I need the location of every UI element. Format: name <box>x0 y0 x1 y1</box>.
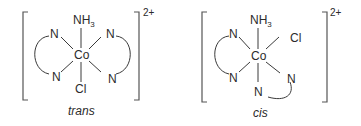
ligand-right-upper: Cl <box>290 31 301 45</box>
ligand-left-upper: N <box>229 27 238 41</box>
metal-center: Co <box>251 49 267 63</box>
isomer-diagram: 2+ NH3 Co Cl N N N N trans 2+ NH3 Co Cl … <box>0 0 361 126</box>
right-bracket <box>134 12 139 100</box>
trans-complex: 2+ NH3 Co Cl N N N N trans <box>23 7 155 118</box>
ligand-right-lower: N <box>287 72 296 86</box>
chelate-left <box>215 36 229 74</box>
ligand-right-lower: N <box>108 72 117 86</box>
ligand-bottom: Cl <box>75 82 86 96</box>
ligand-left-upper: N <box>50 27 59 41</box>
ligand-right-upper: N <box>106 27 115 41</box>
ligand-bottom: N <box>254 85 263 99</box>
left-bracket <box>23 12 28 100</box>
ligand-top: NH3 <box>73 13 95 29</box>
chelate-right <box>116 36 130 74</box>
cis-complex: 2+ NH3 Co Cl N N N N cis <box>202 7 342 120</box>
ligand-left-lower: N <box>229 71 238 85</box>
chelate-left <box>35 36 49 74</box>
caption-trans: trans <box>68 104 95 118</box>
charge-label: 2+ <box>330 7 342 18</box>
left-bracket <box>202 12 207 102</box>
right-bracket <box>322 12 327 102</box>
caption-cis: cis <box>253 106 268 120</box>
ligand-left-lower: N <box>52 70 61 84</box>
charge-label: 2+ <box>143 7 155 18</box>
metal-center: Co <box>74 48 90 62</box>
ligand-top: NH3 <box>250 13 272 29</box>
